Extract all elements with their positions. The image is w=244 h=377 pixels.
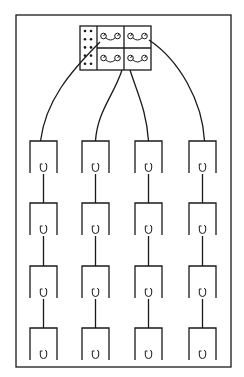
diagram-canvas [0, 0, 244, 377]
unit-box [82, 266, 109, 298]
cup-hook-icon [199, 226, 205, 234]
cup-hook-icon [199, 289, 205, 297]
terminal-dot-icon [90, 46, 93, 49]
unit-box [189, 203, 216, 235]
unit-box [30, 328, 57, 360]
terminal-dot-icon [84, 63, 87, 66]
terminal-dot-icon [84, 38, 87, 41]
terminal-link-icon [101, 55, 121, 62]
cup-hook-icon [92, 351, 98, 359]
cup-hook-icon [40, 164, 46, 172]
terminal-link-icon [128, 55, 148, 62]
feed-wire [149, 40, 205, 141]
cup-hook-icon [199, 351, 205, 359]
wiring-diagram [0, 0, 244, 377]
cup-hook-icon [145, 351, 151, 359]
terminal-dot-icon [90, 30, 93, 33]
cup-hook-icon [92, 164, 98, 172]
feed-wire [130, 70, 149, 141]
terminal-dot-icon [84, 30, 87, 33]
cup-hook-icon [145, 226, 151, 234]
cup-hook-icon [145, 289, 151, 297]
feed-wires [41, 40, 205, 141]
unit-box [189, 328, 216, 360]
unit-box [135, 203, 162, 235]
terminal-dot-icon [84, 46, 87, 49]
unit-box [135, 141, 162, 173]
hub-box [80, 26, 151, 70]
unit-box [189, 266, 216, 298]
unit-box [189, 141, 216, 173]
unit-box [30, 266, 57, 298]
cup-hook-icon [40, 289, 46, 297]
unit-grid [30, 141, 216, 360]
unit-box [82, 328, 109, 360]
cup-hook-icon [145, 164, 151, 172]
unit-box [82, 141, 109, 173]
cup-hook-icon [40, 351, 46, 359]
unit-box [135, 266, 162, 298]
cup-hook-icon [40, 226, 46, 234]
terminal-dot-icon [90, 63, 93, 66]
cup-hook-icon [92, 226, 98, 234]
cup-hook-icon [92, 289, 98, 297]
unit-box [30, 203, 57, 235]
feed-wire [96, 70, 123, 141]
unit-box [82, 203, 109, 235]
unit-box [30, 141, 57, 173]
unit-box [135, 328, 162, 360]
terminal-link-icon [128, 33, 148, 40]
terminal-link-icon [101, 33, 121, 40]
terminal-dot-icon [90, 54, 93, 57]
terminal-dot-icon [90, 38, 93, 41]
cup-hook-icon [199, 164, 205, 172]
